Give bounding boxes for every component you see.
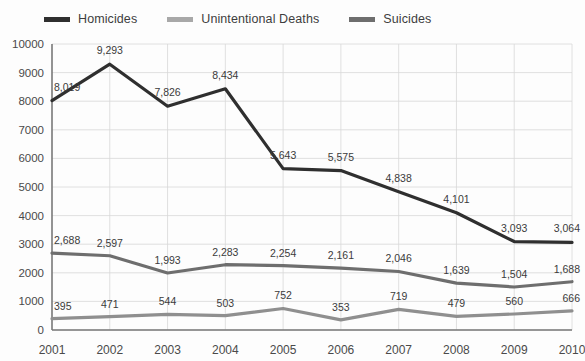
data-point-label: 1,993 xyxy=(154,254,180,266)
y-axis-tick-label: 1000 xyxy=(18,295,44,307)
data-point-label: 4,838 xyxy=(386,172,412,184)
data-point-label: 9,293 xyxy=(97,44,123,56)
x-axis-tick-label: 2005 xyxy=(270,343,297,357)
x-axis-tick-label: 2009 xyxy=(501,343,528,357)
series-line-unintentional-deaths xyxy=(52,308,572,319)
series-line-suicides xyxy=(52,253,572,287)
y-axis-tick-label: 10000 xyxy=(12,38,44,50)
x-axis-tick-label: 2006 xyxy=(328,343,355,357)
line-chart-svg: 1000090008000700060005000400030002000100… xyxy=(0,0,585,361)
x-axis-tick-label: 2008 xyxy=(443,343,470,357)
y-axis-tick-label: 9000 xyxy=(18,67,44,79)
data-point-label: 4,101 xyxy=(443,193,469,205)
data-point-label: 2,283 xyxy=(212,246,238,258)
data-point-label: 752 xyxy=(274,289,292,301)
x-axis-tick-label: 2003 xyxy=(154,343,181,357)
data-point-label: 5,643 xyxy=(270,149,296,161)
chart-container: Homicides Unintentional Deaths Suicides … xyxy=(0,0,585,361)
data-point-label: 1,688 xyxy=(554,263,580,275)
data-point-label: 2,597 xyxy=(97,237,123,249)
data-point-label: 353 xyxy=(332,301,350,313)
data-point-label: 3,064 xyxy=(554,222,580,234)
data-point-label: 666 xyxy=(562,292,580,304)
data-point-label: 2,161 xyxy=(328,249,354,261)
x-axis-tick-label: 2002 xyxy=(96,343,123,357)
y-axis-tick-label: 4000 xyxy=(18,210,44,222)
data-point-label: 2,046 xyxy=(386,252,412,264)
data-point-label: 395 xyxy=(54,300,72,312)
x-axis-tick-label: 2010 xyxy=(559,343,585,357)
data-point-label: 544 xyxy=(159,295,177,307)
data-point-label: 5,575 xyxy=(328,151,354,163)
data-point-label: 8,019 xyxy=(54,81,80,93)
y-axis-tick-labels: 1000090008000700060005000400030002000100… xyxy=(12,38,44,336)
data-point-label: 503 xyxy=(217,297,235,309)
data-point-label: 479 xyxy=(448,297,466,309)
plot-area: 1000090008000700060005000400030002000100… xyxy=(0,0,585,361)
x-axis-tick-label: 2004 xyxy=(212,343,239,357)
y-axis-tick-label: 2000 xyxy=(18,267,44,279)
data-point-label: 719 xyxy=(390,290,408,302)
data-point-label: 8,434 xyxy=(212,69,238,81)
data-point-label: 471 xyxy=(101,298,119,310)
x-axis-tick-label: 2001 xyxy=(39,343,66,357)
y-axis-tick-label: 7000 xyxy=(18,124,44,136)
y-axis-tick-label: 5000 xyxy=(18,181,44,193)
data-point-label: 1,504 xyxy=(501,268,527,280)
x-axis-tick-labels: 2001200220032004200520062007200820092010 xyxy=(39,343,585,357)
y-axis-tick-label: 6000 xyxy=(18,152,44,164)
data-point-label: 2,254 xyxy=(270,247,296,259)
data-point-label: 560 xyxy=(505,295,523,307)
x-axis-tick-label: 2007 xyxy=(385,343,412,357)
data-point-label: 2,688 xyxy=(54,234,80,246)
y-axis-tick-label: 3000 xyxy=(18,238,44,250)
data-point-label: 7,826 xyxy=(154,86,180,98)
y-axis-tick-label: 8000 xyxy=(18,95,44,107)
data-point-label: 1,639 xyxy=(443,264,469,276)
y-axis-tick-label: 0 xyxy=(38,324,44,336)
data-point-label: 3,093 xyxy=(501,222,527,234)
series-lines xyxy=(52,64,572,320)
